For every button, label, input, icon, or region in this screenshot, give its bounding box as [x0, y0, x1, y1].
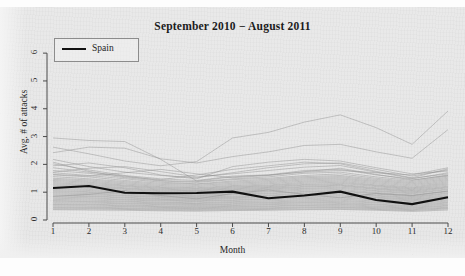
- scan-speck: [117, 60, 118, 61]
- scan-speck: [75, 89, 77, 91]
- scan-speck: [25, 147, 26, 148]
- scan-speck: [112, 222, 114, 224]
- scan-speck: [193, 130, 194, 131]
- scan-speck: [412, 254, 413, 255]
- scan-speck: [338, 183, 339, 184]
- scan-speck: [10, 153, 11, 154]
- scan-speck: [202, 116, 203, 117]
- scan-speck: [463, 167, 464, 168]
- scan-speck: [173, 10, 174, 11]
- chart-page: September 2010 − August 2011 Avg. # of a…: [0, 0, 465, 276]
- scan-speck: [404, 215, 405, 216]
- scan-speck: [424, 88, 426, 90]
- scan-speck: [128, 211, 129, 212]
- scan-speck: [207, 174, 208, 175]
- scan-speck: [55, 181, 56, 182]
- scan-speck: [304, 78, 306, 80]
- scan-speck: [407, 211, 408, 212]
- scan-speck: [105, 156, 106, 157]
- scan-speck: [398, 105, 400, 107]
- scan-speck: [387, 226, 388, 227]
- scan-speck: [335, 217, 336, 218]
- scan-speck: [436, 219, 438, 221]
- legend-label-spain: Spain: [92, 43, 114, 53]
- scan-speck: [266, 94, 267, 95]
- scan-speck: [267, 248, 268, 249]
- legend-line-sample: [62, 48, 86, 50]
- scan-speck: [319, 198, 320, 199]
- scan-speck: [189, 61, 191, 63]
- scan-speck: [78, 174, 79, 175]
- scan-speck: [57, 196, 58, 197]
- scan-speck: [433, 166, 434, 167]
- scan-speck: [379, 81, 381, 83]
- scan-speck: [168, 133, 169, 134]
- scan-speck: [40, 157, 41, 158]
- scan-speck: [330, 92, 332, 94]
- scan-speck: [165, 239, 166, 240]
- scan-speck: [429, 71, 430, 72]
- scan-speck: [314, 238, 316, 240]
- scan-speck: [93, 141, 95, 143]
- scan-speck: [15, 209, 17, 211]
- scan-speck: [251, 237, 252, 238]
- scan-speck: [295, 127, 296, 128]
- scan-speck: [358, 83, 360, 85]
- scan-speck: [449, 126, 450, 127]
- scan-speck: [398, 144, 399, 145]
- scan-speck: [245, 75, 247, 77]
- scan-speck: [342, 253, 343, 254]
- scan-speck: [84, 242, 85, 243]
